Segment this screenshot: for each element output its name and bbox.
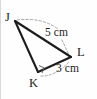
- vertex-label-j: J: [5, 11, 10, 24]
- measure-label-kl: 3 cm: [56, 63, 79, 75]
- measure-label-jl: 5 cm: [45, 27, 68, 39]
- geometry-figure: J K L 5 cm 3 cm: [0, 0, 97, 99]
- vertex-label-k: K: [29, 77, 38, 90]
- vertex-label-l: L: [77, 46, 85, 59]
